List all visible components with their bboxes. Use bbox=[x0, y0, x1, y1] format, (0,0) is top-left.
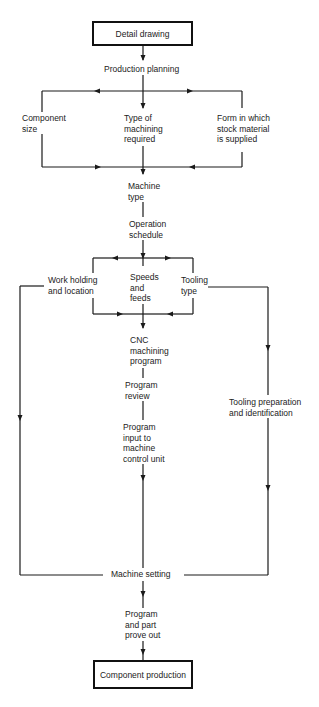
tooling-preparation-node: Tooling preparation and identification bbox=[229, 397, 301, 418]
machine-type-node: Machine type bbox=[128, 181, 160, 202]
work-holding-node: Work holding and location bbox=[48, 275, 97, 296]
component-production-node: Component production bbox=[93, 660, 193, 689]
machine-setting-node: Machine setting bbox=[111, 569, 171, 580]
detail-drawing-node: Detail drawing bbox=[92, 21, 193, 46]
speeds-feeds-node: Speeds and feeds bbox=[130, 272, 159, 304]
prove-out-node: Program and part prove out bbox=[125, 609, 160, 641]
component-production-label: Component production bbox=[100, 670, 186, 680]
production-planning-node: Production planning bbox=[104, 64, 179, 75]
program-review-node: Program review bbox=[125, 380, 158, 401]
operation-schedule-node: Operation schedule bbox=[129, 219, 166, 240]
cnc-machining-program-node: CNC machining program bbox=[130, 335, 169, 367]
stock-material-form-node: Form in which stock material is supplied bbox=[217, 113, 270, 145]
program-input-node: Program input to machine control unit bbox=[123, 422, 165, 464]
tooling-type-node: Tooling type bbox=[181, 275, 208, 296]
component-size-node: Component size bbox=[22, 113, 66, 134]
type-of-machining-node: Type of machining required bbox=[124, 113, 163, 145]
detail-drawing-label: Detail drawing bbox=[116, 29, 170, 39]
